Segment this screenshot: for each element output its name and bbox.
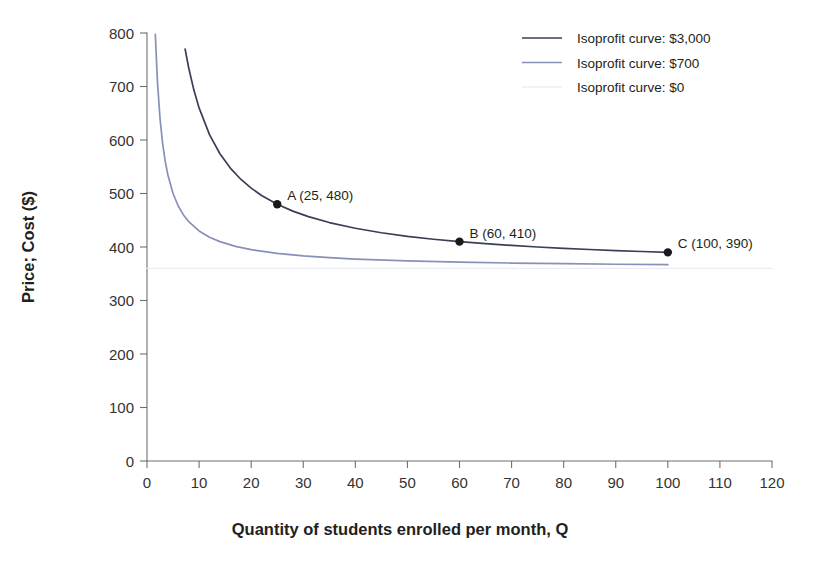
- y-tick-label: 200: [109, 346, 134, 363]
- legend-label-0: Isoprofit curve: $3,000: [577, 31, 711, 46]
- data-point-label-B: B (60, 410): [470, 226, 537, 241]
- x-tick-label: 10: [191, 474, 208, 491]
- x-axis-title: Quantity of students enrolled per month,…: [232, 520, 569, 538]
- y-tick-label: 0: [126, 453, 134, 470]
- legend-label-2: Isoprofit curve: $0: [577, 80, 684, 95]
- data-point-C: [664, 248, 672, 256]
- x-tick-label: 100: [655, 474, 680, 491]
- y-tick-label: 600: [109, 132, 134, 149]
- isoprofit-curves-chart: 0100200300400500600700800 01020304050607…: [0, 0, 821, 562]
- y-tick-label: 400: [109, 239, 134, 256]
- x-tick-label: 50: [399, 474, 416, 491]
- x-axis-ticks: 0102030405060708090100110120: [143, 461, 785, 491]
- x-tick-label: 40: [347, 474, 364, 491]
- x-tick-label: 60: [451, 474, 468, 491]
- x-tick-label: 90: [607, 474, 624, 491]
- legend: Isoprofit curve: $3,000Isoprofit curve: …: [522, 31, 711, 95]
- chart-canvas: 0100200300400500600700800 01020304050607…: [0, 0, 821, 562]
- y-axis-ticks: 0100200300400500600700800: [109, 25, 147, 470]
- x-tick-label: 20: [243, 474, 260, 491]
- data-point-label-C: C (100, 390): [678, 236, 753, 251]
- x-tick-label: 120: [759, 474, 784, 491]
- y-axis-title: Price; Cost ($): [19, 191, 37, 303]
- x-tick-label: 30: [295, 474, 312, 491]
- data-point-label-A: A (25, 480): [287, 188, 353, 203]
- x-tick-label: 0: [143, 474, 151, 491]
- x-tick-label: 110: [708, 474, 732, 491]
- y-tick-label: 700: [109, 78, 134, 95]
- y-tick-label: 500: [109, 185, 134, 202]
- legend-label-1: Isoprofit curve: $700: [577, 56, 699, 71]
- y-tick-label: 800: [109, 25, 134, 42]
- data-point-A: [273, 200, 281, 208]
- y-tick-label: 300: [109, 292, 134, 309]
- x-tick-label: 70: [503, 474, 520, 491]
- y-tick-label: 100: [109, 399, 134, 416]
- x-tick-label: 80: [555, 474, 572, 491]
- data-point-B: [455, 237, 463, 245]
